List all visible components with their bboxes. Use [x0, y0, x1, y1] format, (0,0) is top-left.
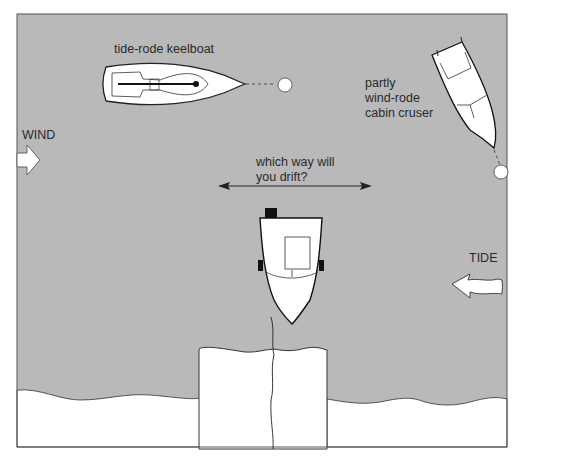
cruiser-label-line2: wind-rode — [365, 91, 420, 106]
shore-left — [17, 390, 200, 447]
jetty — [199, 347, 327, 449]
cruiser-label-line3: cabin cruser — [365, 106, 433, 121]
drift-diagram — [0, 0, 571, 466]
cruiser-label-line1: partly — [365, 76, 396, 91]
tide-label: TIDE — [469, 251, 497, 266]
drift-question-line2: you drift? — [256, 170, 307, 185]
buoy-icon — [494, 165, 508, 179]
drift-question-line1: which way will — [256, 155, 335, 170]
shore-right — [327, 398, 507, 447]
keelboat-label: tide-rode keelboat — [114, 42, 214, 57]
wind-label: WIND — [22, 128, 55, 143]
buoy-icon — [278, 78, 292, 92]
